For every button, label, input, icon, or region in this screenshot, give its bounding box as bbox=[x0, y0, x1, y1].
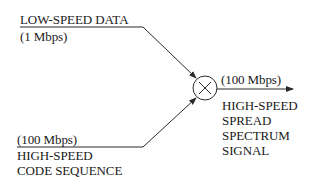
code-input-rate: (100 Mbps) bbox=[17, 132, 77, 147]
code-input-line2: CODE SEQUENCE bbox=[17, 163, 122, 178]
data-input-title: LOW-SPEED DATA bbox=[20, 12, 128, 27]
output-line3: SPECTRUM bbox=[222, 128, 290, 143]
output-line2: SPREAD bbox=[222, 113, 271, 128]
output-line1: HIGH-SPEED bbox=[222, 98, 298, 113]
multiplier-icon bbox=[193, 76, 217, 100]
output-line4: SIGNAL bbox=[222, 143, 269, 158]
code-input-line1: HIGH-SPEED bbox=[17, 148, 93, 163]
spread-spectrum-diagram: LOW-SPEED DATA (1 Mbps) (100 Mbps) HIGH-… bbox=[0, 0, 326, 187]
output-rate: (100 Mbps) bbox=[221, 72, 281, 87]
data-input-rate: (1 Mbps) bbox=[20, 29, 67, 44]
